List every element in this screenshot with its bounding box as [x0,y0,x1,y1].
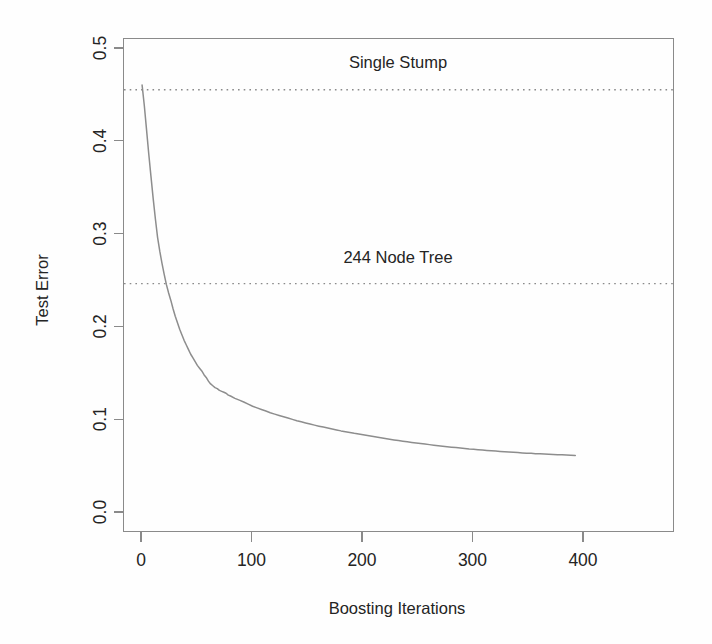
y-tick-label: 0.1 [90,407,110,431]
y-axis-ticks [114,48,124,512]
x-tick-label: 300 [458,550,487,570]
data-series-group [142,85,575,455]
x-tick-label: 0 [136,550,146,570]
x-tick-label: 400 [568,550,597,570]
y-tick-label: 0.4 [90,128,110,153]
series-line-test-error [142,85,575,455]
chart-annotations-group: Single Stump244 Node Tree [343,53,452,266]
y-tick-label: 0.3 [90,221,110,245]
y-axis-title: Test Error [33,254,51,326]
y-tick-label: 0.0 [90,500,110,525]
x-axis-tick-labels: 0100200300400 [136,550,598,570]
x-axis-title: Boosting Iterations [329,599,466,617]
chart-figure: 0.00.10.20.30.40.5 0100200300400 Single … [0,0,712,644]
y-tick-label: 0.2 [90,314,110,338]
x-tick-label: 200 [347,550,376,570]
y-axis-tick-labels: 0.00.10.20.30.40.5 [90,36,110,524]
annotation-label-0: Single Stump [349,53,447,71]
y-tick-label: 0.5 [90,36,110,60]
test-error-line-chart: 0.00.10.20.30.40.5 0100200300400 Single … [0,0,712,644]
annotation-label-1: 244 Node Tree [343,248,452,266]
x-axis-ticks [141,532,583,542]
plot-panel-border [124,39,674,532]
x-tick-label: 100 [237,550,266,570]
